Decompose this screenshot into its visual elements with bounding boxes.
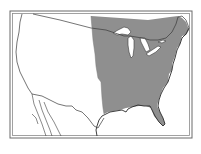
- us-map: [0, 0, 201, 154]
- pacific-coast: [16, 14, 32, 94]
- southern-border: [32, 94, 104, 128]
- mexico-west-coast: [44, 102, 61, 136]
- baja-tip: [32, 114, 38, 124]
- shaded-eastern-region: [91, 16, 189, 126]
